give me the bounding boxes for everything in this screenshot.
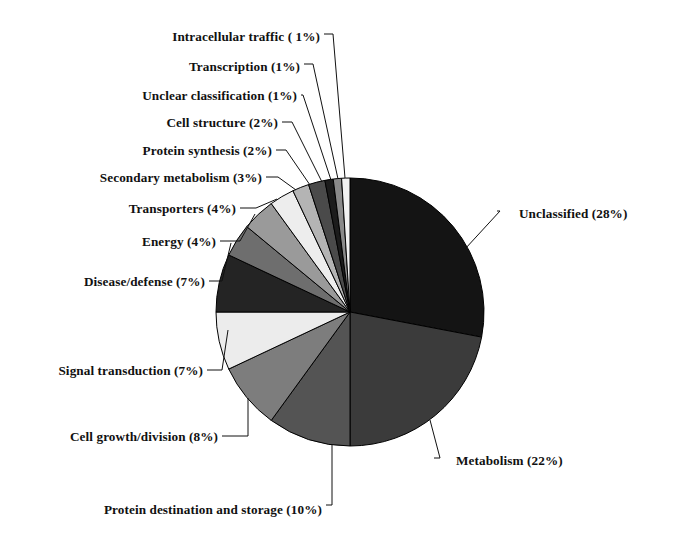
pie-label-transcription: Transcription (1%) [0, 59, 300, 74]
pie-label-protein-destination: Protein destination and storage (10%) [0, 502, 322, 517]
pie-slice[interactable] [350, 178, 484, 337]
pie-label-secondary-metabolism: Secondary metabolism (3%) [0, 170, 262, 185]
pie-label-cell-structure: Cell structure (2%) [0, 115, 278, 130]
pie-label-unclear-classification: Unclear classification (1%) [0, 88, 297, 103]
pie-label-unclassified: Unclassified (28%) [519, 206, 627, 221]
pie-label-signal-transduction: Signal transduction (7%) [0, 363, 203, 378]
pie-label-metabolism: Metabolism (22%) [456, 453, 563, 468]
pie-chart-figure: Intracellular traffic ( 1%)Transcription… [0, 0, 679, 544]
pie-graphic [0, 0, 679, 544]
pie-label-disease-defense: Disease/defense (7%) [0, 274, 205, 289]
pie-label-intracellular-traffic: Intracellular traffic ( 1%) [0, 29, 320, 44]
pie-label-transporters: Transporters (4%) [0, 201, 236, 216]
pie-label-cell-growth-division: Cell growth/division (8%) [0, 429, 218, 444]
pie-label-protein-synthesis: Protein synthesis (2%) [0, 143, 272, 158]
pie-label-energy: Energy (4%) [0, 234, 216, 249]
